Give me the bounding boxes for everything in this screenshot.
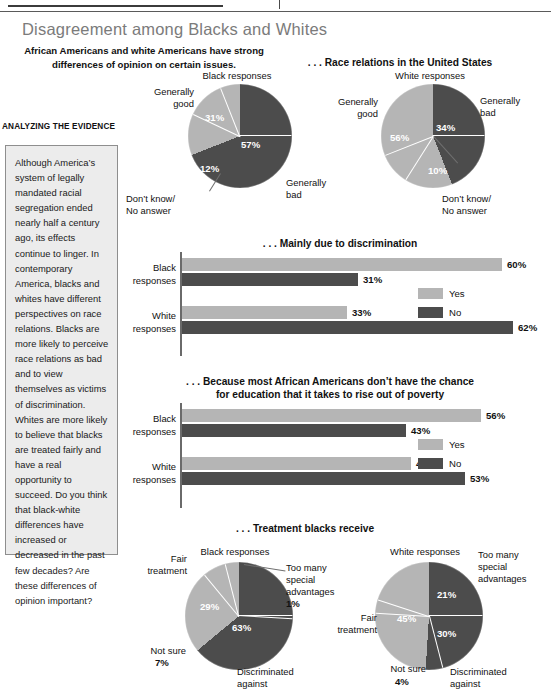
pie-a-subject: Black responses <box>182 70 292 82</box>
legend-label-no-2: No <box>449 458 461 469</box>
pie-b-value-10: 10% <box>428 165 447 176</box>
pie-c-value-29: 29% <box>200 601 219 612</box>
legend-label-no-1: No <box>449 307 461 318</box>
pie-d-label-too-many: Too manyspecialadvantages <box>478 549 544 585</box>
header-rule-full <box>0 11 551 12</box>
bar-chart-1-category-white: Whiteresponses <box>106 310 176 335</box>
pie-chart-white-treatment <box>375 562 483 670</box>
pie-a-value-31: 31% <box>205 112 224 123</box>
pie-c-label-not-sure: Not sure <box>130 645 186 657</box>
page-title: Disagreement among Blacks and Whites <box>22 20 327 39</box>
pie-a-label-dont-know: Don’t know/No answer <box>126 193 206 217</box>
bar-white-no-education <box>182 472 465 485</box>
bar-black-no-discrimination <box>182 273 358 286</box>
pie-chart-black-treatment <box>185 562 293 670</box>
section-title-treatment: . . . Treatment blacks receive <box>195 522 415 535</box>
bar-chart-1-category-black: Blackresponses <box>106 262 176 287</box>
pie-d-value-45: 45% <box>397 613 416 624</box>
pie-b-value-56: 56% <box>390 132 409 143</box>
pie-c-value-7: 7% <box>155 657 169 668</box>
pie-d-label-not-sure: Not sure <box>370 663 426 675</box>
pie-c-subject: Black responses <box>180 546 290 558</box>
pie-a-label-generally-good: Generallygood <box>132 86 194 110</box>
bar-value-black-yes-education: 56% <box>486 409 505 422</box>
bar-value-black-no-education: 43% <box>411 424 430 437</box>
bar-white-yes-education <box>182 457 411 470</box>
pie-slice-separator <box>432 135 484 136</box>
analyzing-the-evidence-heading: ANALYZING THE EVIDENCE <box>2 122 115 131</box>
bar-black-no-education <box>182 424 406 437</box>
bar-white-no-discrimination <box>182 321 513 334</box>
pie-c-value-1: 1% <box>286 598 300 609</box>
legend-swatch-yes-1 <box>418 288 443 299</box>
pie-a-value-57: 57% <box>241 139 260 150</box>
pie-b-subject: White responses <box>375 70 485 82</box>
legend-label-yes-1: Yes <box>449 288 465 299</box>
pie-d-label-discriminated: Discriminatedagainst <box>450 666 528 690</box>
bar-value-white-no-education: 53% <box>470 472 489 485</box>
pie-b-value-34: 34% <box>436 122 455 133</box>
pie-slice-separator <box>428 615 482 616</box>
pie-a-value-12: 12% <box>200 163 219 174</box>
section-title-education-line1: . . . Because most African Americans don… <box>160 375 500 388</box>
pie-d-value-21: 21% <box>437 589 456 600</box>
bar-value-white-no-discrimination: 62% <box>518 321 537 334</box>
header-tick-mark <box>279 0 280 9</box>
pie-d-subject: White responses <box>370 546 480 558</box>
bar-black-yes-discrimination <box>182 258 502 271</box>
bar-chart-2-category-black: Blackresponses <box>106 413 176 438</box>
section-title-discrimination: . . . Mainly due to discrimination <box>180 237 500 250</box>
pie-c-label-discriminated: Discriminatedagainst <box>237 666 315 690</box>
pie-c-value-63: 63% <box>232 622 251 633</box>
pie-b-label-generally-bad: Generallybad <box>480 95 542 119</box>
bar-value-black-no-discrimination: 31% <box>363 273 382 286</box>
legend-swatch-no-1 <box>418 307 443 318</box>
bar-value-black-yes-discrimination: 60% <box>507 258 526 271</box>
section-title-race-relations: . . . Race relations in the United State… <box>255 56 545 69</box>
pie-d-label-fair-treatment: Fairtreatment <box>329 612 377 636</box>
page-header <box>0 0 551 18</box>
pie-c-label-too-many: Too manyspecialadvantages <box>286 562 356 598</box>
legend-swatch-no-2 <box>418 458 443 469</box>
bar-value-white-yes-discrimination: 33% <box>352 306 371 319</box>
legend-label-yes-2: Yes <box>449 439 465 450</box>
section-title-education-line2: for education that it takes to rise out … <box>160 388 500 401</box>
pie-slice-separator <box>239 135 291 136</box>
page-subtitle: African Americans and white Americans ha… <box>24 44 264 72</box>
pie-a-label-generally-bad: Generallybad <box>286 177 346 201</box>
pie-d-value-30: 30% <box>437 628 456 639</box>
bar-white-yes-discrimination <box>182 306 347 319</box>
pie-b-label-dont-know: Don’t know/No answer <box>442 193 522 217</box>
pie-slice-separator <box>429 615 444 668</box>
legend-swatch-yes-2 <box>418 439 443 450</box>
bar-chart-2-category-white: Whiteresponses <box>106 461 176 486</box>
pie-c-label-fair-treatment: Fairtreatment <box>131 553 187 577</box>
pie-d-value-4: 4% <box>395 676 409 687</box>
bar-black-yes-education <box>182 409 481 422</box>
analyzing-the-evidence-text: Although America’s system of legally man… <box>5 145 118 555</box>
pie-b-label-generally-good: Generallygood <box>312 96 378 120</box>
header-rule-thick <box>8 5 223 7</box>
